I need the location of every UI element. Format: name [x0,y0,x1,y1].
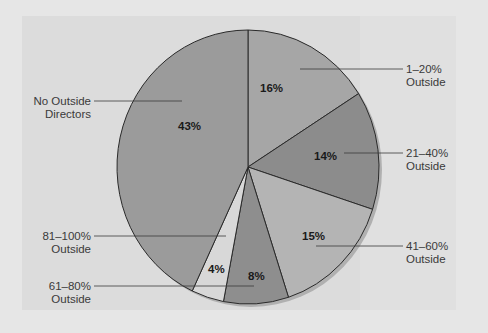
category-label-14-line2: Outside [406,160,446,172]
pie-chart: 16% 14% 15% 8% 4% 43% 1–20% Outside 21–4… [0,0,488,333]
category-label-16-line2: Outside [406,76,446,88]
category-label-4-line2: Outside [51,243,91,255]
category-label-16-line1: 1–20% [406,63,442,75]
pct-label-43: 43% [178,120,201,132]
category-label-43-line1: No Outside [33,95,91,107]
pct-label-14: 14% [314,150,337,162]
pct-label-15: 15% [302,230,325,242]
category-label-15-line2: Outside [406,253,446,265]
pie-slices [117,30,379,304]
category-label-8-line1: 61–80% [49,280,91,292]
category-label-15-line1: 41–60% [406,240,448,252]
chart-stage: 16% 14% 15% 8% 4% 43% 1–20% Outside 21–4… [0,0,488,333]
pct-label-16: 16% [260,82,283,94]
pct-label-4: 4% [208,263,225,275]
category-label-4-line1: 81–100% [42,230,91,242]
pct-label-8: 8% [248,270,265,282]
category-label-14-line1: 21–40% [406,147,448,159]
category-label-43-line2: Directors [45,108,91,120]
category-label-8-line2: Outside [51,293,91,305]
